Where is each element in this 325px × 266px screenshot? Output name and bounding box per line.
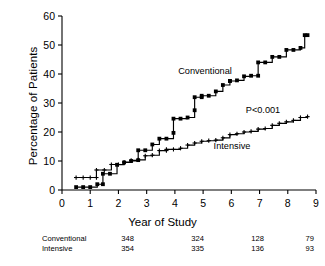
data-point-marker [235, 132, 239, 136]
data-point-marker [186, 116, 190, 120]
data-point-marker [143, 154, 147, 158]
data-point-marker [292, 48, 296, 52]
data-point-marker [249, 74, 253, 78]
risk-value: 354 [108, 244, 134, 254]
data-point-marker [172, 117, 176, 121]
data-point-marker [207, 94, 211, 98]
data-point-marker [95, 182, 99, 186]
data-point-marker [214, 90, 218, 94]
data-point-marker [94, 168, 98, 172]
risk-value: 324 [178, 234, 204, 244]
y-tick-label: 0 [49, 184, 55, 196]
data-point-marker [256, 74, 260, 78]
risk-row-label: Intensive [42, 244, 72, 254]
data-point-marker [228, 133, 232, 137]
x-tick-label: 2 [116, 197, 122, 209]
data-point-marker [150, 143, 154, 147]
x-tick-label: 4 [172, 197, 178, 209]
data-point-marker [88, 175, 92, 179]
data-point-marker [172, 131, 176, 135]
x-tick-label: 3 [144, 197, 150, 209]
data-point-marker [299, 46, 303, 50]
data-point-marker [306, 33, 310, 37]
x-tick-label: 6 [228, 197, 234, 209]
chart-figure: Percentage of Patients 01020304050600123… [0, 0, 325, 266]
data-point-marker [235, 78, 239, 82]
x-tick-label: 0 [59, 197, 65, 209]
risk-value: 136 [238, 244, 264, 254]
data-point-marker [81, 185, 85, 189]
data-point-marker [270, 123, 274, 127]
data-point-marker [171, 147, 175, 151]
data-point-marker [207, 139, 211, 143]
data-point-marker [81, 175, 85, 179]
data-point-marker [150, 153, 154, 157]
x-tick-label: 1 [87, 197, 93, 209]
numbers-at-risk-table: Conventional 348 324 128 79 Intensive 35… [0, 234, 325, 253]
risk-value: 93 [292, 244, 314, 254]
data-point-marker [108, 172, 112, 176]
data-point-marker [88, 185, 92, 189]
data-point-marker [263, 126, 267, 130]
data-point-marker [284, 48, 288, 52]
data-point-marker [74, 175, 78, 179]
data-point-marker [249, 129, 253, 133]
data-point-marker [277, 55, 281, 59]
data-point-marker [157, 148, 161, 152]
plot-area: 01020304050600123456789ConventionalInten… [0, 0, 325, 216]
data-point-marker [101, 182, 105, 186]
data-point-marker [179, 117, 183, 121]
risk-value: 335 [178, 244, 204, 254]
data-point-marker [270, 55, 274, 59]
data-point-marker [256, 61, 260, 65]
y-tick-label: 30 [43, 97, 55, 109]
x-tick-label: 8 [285, 197, 291, 209]
x-tick-label: 5 [200, 197, 206, 209]
data-point-marker [228, 79, 232, 83]
data-point-marker [263, 61, 267, 65]
p-value-annotation: P<0.001 [246, 105, 281, 115]
data-point-marker [101, 172, 105, 176]
x-tick-label: 7 [257, 197, 263, 209]
risk-value: 348 [108, 234, 134, 244]
data-point-marker [157, 137, 161, 141]
data-point-marker [109, 162, 113, 166]
x-tick-label: 9 [313, 197, 319, 209]
data-point-marker [74, 185, 78, 189]
data-point-marker [298, 115, 302, 119]
series-label-intensive: Intensive [214, 141, 251, 151]
y-tick-label: 20 [43, 126, 55, 138]
y-tick-label: 40 [43, 68, 55, 80]
data-point-marker [185, 143, 189, 147]
data-point-marker [256, 127, 260, 131]
data-point-marker [94, 175, 98, 179]
risk-row-label: Conventional [42, 234, 86, 244]
data-point-marker [221, 136, 225, 140]
y-tick-label: 60 [43, 10, 55, 22]
data-point-marker [221, 83, 225, 87]
y-tick-label: 50 [43, 39, 55, 51]
risk-value: 128 [238, 234, 264, 244]
data-point-marker [136, 148, 140, 152]
data-point-marker [200, 94, 204, 98]
data-point-marker [165, 137, 169, 141]
table-row: Conventional 348 324 128 79 [0, 234, 325, 244]
data-point-marker [305, 115, 309, 119]
data-point-marker [102, 168, 106, 172]
x-axis-title: Year of Study [0, 216, 325, 228]
risk-value: 79 [292, 234, 314, 244]
data-point-marker [242, 74, 246, 78]
y-tick-label: 10 [43, 155, 55, 167]
series-label-conventional: Conventional [178, 66, 232, 76]
table-row: Intensive 354 335 136 93 [0, 244, 325, 254]
data-point-marker [193, 95, 197, 99]
data-point-marker [143, 148, 147, 152]
data-point-marker [193, 108, 197, 112]
